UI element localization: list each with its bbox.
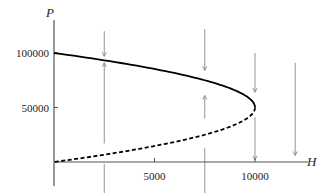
bifurcation-chart: 50001000050000100000 P H [0,0,328,193]
axes [54,20,308,186]
arrow-down-icon [293,63,297,156]
x-axis-label: H [306,154,317,169]
arrow-up-icon [102,63,106,144]
stable-equilibrium-curve [54,53,255,108]
unstable-equilibrium-curve [54,108,255,163]
arrow-down-icon [253,117,257,160]
y-axis-label: P [45,5,54,20]
arrow-down-icon [203,29,207,70]
x-tick-label: 5000 [144,170,167,182]
arrow-up-icon [203,96,207,119]
x-tick-label: 10000 [241,170,269,182]
arrow-down-icon [203,148,207,193]
arrow-down-icon [102,31,106,56]
curves [54,53,255,162]
arrow-down-icon [102,164,106,193]
y-tick-label: 100000 [16,47,50,59]
y-tick-label: 50000 [22,102,50,114]
arrows-layer [102,29,297,193]
arrow-down-icon [253,53,257,92]
